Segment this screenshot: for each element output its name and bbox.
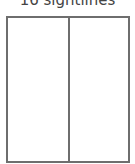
figure-caption: 16 sightlines [0,0,135,9]
panel-divider [68,18,70,161]
two-panel-frame [6,16,130,163]
